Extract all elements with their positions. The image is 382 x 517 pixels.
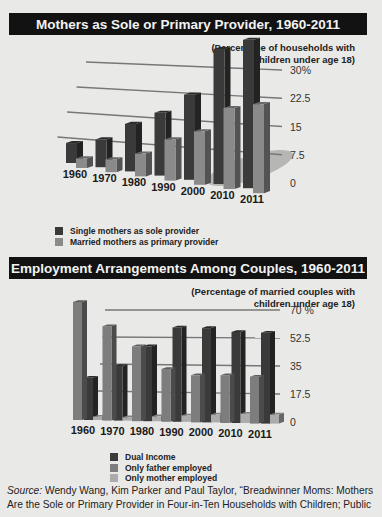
- bar-side: [141, 345, 146, 422]
- bar-side: [211, 326, 216, 422]
- y-tick-label: 70 %: [290, 304, 314, 316]
- legend-swatch-icon: [110, 464, 118, 472]
- bar-side: [152, 345, 157, 422]
- bar-group-1960: [73, 300, 107, 420]
- bar-group-2011: [250, 331, 284, 424]
- y-tick-label: 35: [290, 360, 302, 372]
- x-tick-label: 2000: [189, 426, 213, 438]
- bar-only-father-employed-1980: [132, 346, 141, 421]
- gridline: [103, 337, 281, 338]
- x-tick-label: 1970: [100, 425, 124, 437]
- bar-only-father-employed-1970: [103, 326, 112, 420]
- bar-side: [171, 367, 176, 422]
- y-tick-label: 0: [290, 416, 296, 428]
- bar-group-2000: [191, 326, 225, 422]
- source-note: Source: Wendy Wang, Kim Parker and Paul …: [7, 484, 379, 511]
- legend-item: Only mother employed: [110, 473, 217, 484]
- bar-side: [270, 331, 275, 424]
- bar-side: [123, 364, 128, 420]
- legend-item: Only father employed: [110, 463, 217, 474]
- bar-only-mother-employed-2011: [270, 415, 279, 424]
- bar-side: [230, 373, 235, 423]
- source-label: Source:: [7, 485, 42, 496]
- bar-side: [82, 300, 87, 420]
- legend-label: Dual Income: [125, 452, 176, 462]
- bar-group-1980: [132, 345, 166, 422]
- bar-group-2010: [221, 330, 255, 423]
- bar-only-mother-employed-2010: [241, 414, 250, 423]
- chart2-plot: 017.53552.570 %1960197019801990200020102…: [0, 0, 382, 460]
- chart2-legend: Dual IncomeOnly father employedOnly moth…: [110, 452, 217, 484]
- bar-only-mother-employed-1960: [93, 417, 102, 420]
- bar-side: [241, 330, 246, 423]
- bar-only-father-employed-2011: [250, 377, 259, 424]
- bar-only-mother-employed-1970: [123, 417, 132, 420]
- legend-swatch-icon: [110, 453, 118, 461]
- bar-only-mother-employed-1980: [152, 416, 161, 421]
- x-tick-label: 1990: [159, 426, 183, 438]
- x-tick-label: 2010: [218, 427, 242, 439]
- bar-side: [93, 376, 98, 420]
- bar-group-1970: [103, 324, 137, 420]
- x-tick-label: 1980: [130, 425, 154, 437]
- x-tick-label: 1960: [71, 424, 95, 436]
- y-tick-label: 52.5: [290, 332, 311, 344]
- bar-only-father-employed-2010: [221, 375, 230, 423]
- bar-side: [259, 375, 264, 424]
- bar-side: [200, 374, 205, 423]
- bar-only-father-employed-2000: [191, 375, 200, 422]
- bar-only-father-employed-1990: [162, 369, 171, 422]
- bar-group-1990: [162, 326, 196, 422]
- source-text: Wendy Wang, Kim Parker and Paul Taylor, …: [7, 485, 373, 510]
- bar-only-mother-employed-2000: [211, 415, 220, 423]
- bar-side: [279, 413, 284, 424]
- bar-only-father-employed-1960: [73, 302, 82, 420]
- bar-side: [182, 326, 187, 422]
- legend-label: Only mother employed: [125, 473, 217, 483]
- legend-item: Dual Income: [110, 452, 217, 463]
- legend-swatch-icon: [110, 474, 118, 482]
- bar-only-mother-employed-1990: [182, 415, 191, 421]
- legend-label: Only father employed: [125, 463, 212, 473]
- x-tick-label: 2011: [248, 428, 272, 440]
- y-tick-label: 17.5: [290, 388, 311, 400]
- bar-side: [112, 324, 117, 420]
